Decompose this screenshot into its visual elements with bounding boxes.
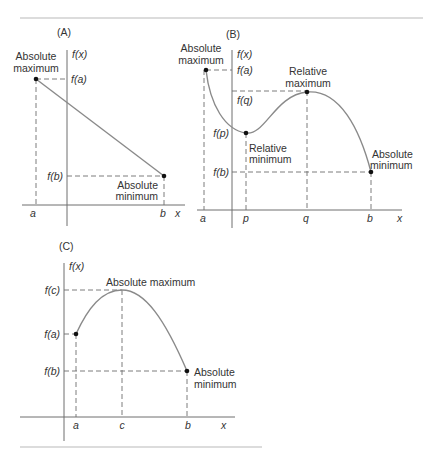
panel-b-point-a	[204, 68, 209, 73]
panel-a-curve	[36, 79, 164, 176]
panel-a-tick-a: a	[30, 207, 36, 219]
panel-c-absmax-label: Absolute maximum	[106, 276, 196, 288]
panel-b-tick-fa: f(a)	[237, 64, 253, 76]
panel-b-absmax-line2: maximum	[178, 54, 224, 66]
panel-b-tick-p: p	[242, 212, 249, 224]
panel-b-absmin-line2: minimum	[370, 159, 413, 171]
panel-b-y-axis-label: f(x)	[237, 48, 252, 60]
panel-c-point-a	[74, 332, 79, 337]
panel-c-curve	[76, 290, 187, 371]
panel-b-relmax-line2: maximum	[285, 77, 331, 89]
panel-a-tick-fb: f(b)	[47, 170, 63, 182]
panel-c-tick-c: c	[119, 419, 125, 431]
panel-a-absmax-line1: Absolute	[16, 50, 57, 62]
panel-a-y-axis-label: f(x)	[72, 48, 87, 60]
panel-b-tick-fb: f(b)	[213, 166, 229, 178]
panel-a-tick-b: b	[160, 207, 166, 219]
panel-b-tick-q: q	[303, 212, 309, 224]
panel-b-tick-a: a	[200, 212, 206, 224]
panel-a-title: (A)	[57, 26, 71, 38]
panel-a-point-b	[162, 174, 167, 179]
panel-b-relmin-line2: minimum	[249, 153, 292, 165]
panel-a-point-a	[34, 77, 39, 82]
panel-a: (A) f(x) x f(a) f(b) a b Absolute maximu…	[13, 26, 185, 226]
panel-c-tick-fb: f(b)	[44, 365, 60, 377]
panel-b-title: (B)	[226, 28, 240, 40]
panel-b-x-axis-label: x	[396, 212, 403, 224]
panel-b: (B) f(x) x f(a) f(q) f(p) f(b) a p q b A…	[178, 28, 413, 228]
panel-c: (C) f(x) x f(c) f(a) f(b) a c b Absolute…	[20, 240, 237, 441]
panel-a-tick-fa: f(a)	[71, 73, 87, 85]
panel-c-absmin-line2: minimum	[194, 378, 237, 390]
panel-b-tick-fp: f(p)	[213, 127, 229, 139]
panel-c-tick-b: b	[185, 419, 191, 431]
panel-c-tick-a: a	[73, 419, 79, 431]
panel-b-relmax-line1: Relative	[289, 65, 327, 77]
panel-a-absmin-line2: minimum	[115, 190, 158, 202]
extrema-figure: (A) f(x) x f(a) f(b) a b Absolute maximu…	[0, 0, 435, 453]
panel-c-absmin-line1: Absolute	[194, 366, 235, 378]
panel-a-x-axis-label: x	[174, 207, 181, 219]
panel-b-tick-fq: f(q)	[237, 94, 253, 106]
panel-c-title: (C)	[59, 240, 74, 252]
panel-c-tick-fa: f(a)	[44, 328, 60, 340]
panel-c-y-axis-label: f(x)	[69, 260, 84, 272]
panel-c-point-b	[185, 369, 190, 374]
panel-b-point-p	[244, 131, 249, 136]
panel-b-absmax-line1: Absolute	[181, 42, 222, 54]
panel-b-point-q	[305, 90, 310, 95]
panel-a-absmax-line2: maximum	[13, 62, 59, 74]
panel-c-x-axis-label: x	[220, 419, 227, 431]
panel-b-tick-b: b	[367, 212, 373, 224]
panel-c-tick-fc: f(c)	[45, 284, 60, 296]
